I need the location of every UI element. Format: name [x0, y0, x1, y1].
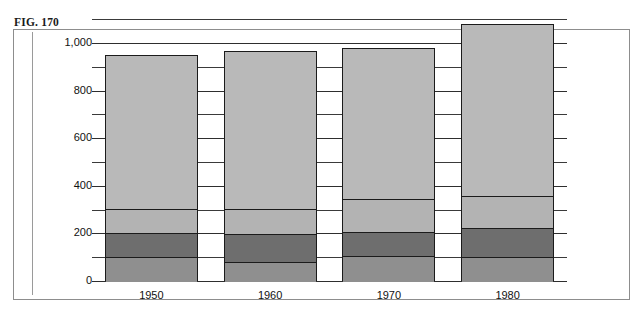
bar-1970-segment-4-top [343, 49, 434, 199]
bar-1980-segment-4-top [462, 25, 553, 196]
x-tick-label-1970: 1970 [349, 289, 429, 301]
y-axis-spine [32, 32, 33, 295]
x-tick-label-1950: 1950 [111, 289, 191, 301]
bar-1970 [342, 48, 435, 281]
bar-1980-segment-1-bottom [462, 257, 553, 282]
bar-1960 [224, 51, 317, 281]
scan-artifact-top-text [18, 0, 338, 6]
bar-1970-segment-1-bottom [343, 256, 434, 282]
bar-1980-segment-2 [462, 228, 553, 257]
bar-1980-segment-3 [462, 196, 553, 228]
bar-1960-segment-1-bottom [225, 262, 316, 282]
figure-frame: 02004006008001,000 1950196019701980 [13, 29, 630, 300]
bar-1980 [461, 24, 554, 281]
bar-1960-segment-4-top [225, 52, 316, 209]
bar-1950 [105, 55, 198, 281]
y-axis-tick-labels: 02004006008001,000 [14, 30, 92, 301]
x-tick-label-1980: 1980 [468, 289, 548, 301]
bar-1950-segment-2 [106, 233, 197, 257]
bar-1950-segment-4-top [106, 56, 197, 210]
bar-1950-segment-3 [106, 209, 197, 233]
chart-plot-area: 02004006008001,000 1950196019701980 [14, 30, 631, 301]
bar-1960-segment-3 [225, 209, 316, 234]
figure-label: FIG. 170 [14, 16, 59, 28]
bar-1960-segment-2 [225, 234, 316, 261]
x-tick-label-1960: 1960 [230, 289, 310, 301]
bar-1970-segment-2 [343, 232, 434, 256]
gridline-1100 [92, 19, 567, 20]
bar-1970-segment-3 [343, 199, 434, 232]
bar-1950-segment-1-bottom [106, 257, 197, 282]
